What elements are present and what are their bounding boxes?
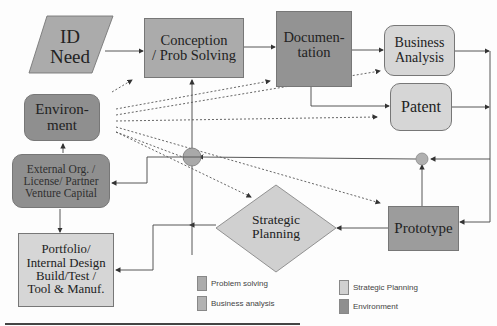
- node-business-analysis: Business Analysis: [384, 25, 455, 76]
- legend-item-environment: Environment: [339, 299, 398, 314]
- flow-diagram: ID Need Conception / Prob Solving Docume…: [0, 0, 497, 326]
- node-patent: Patent: [390, 83, 452, 131]
- legend-label: Strategic Planning: [353, 283, 418, 292]
- node-strategic-planning: Strategic Planning: [236, 213, 316, 241]
- merge-circle-small: [416, 153, 428, 165]
- legend-swatch: [339, 299, 349, 314]
- legend-label: Problem solving: [211, 279, 268, 288]
- legend-label: Environment: [353, 302, 398, 311]
- node-external-org: External Org. / License/ Partner Venture…: [12, 154, 110, 208]
- node-conception: Conception / Prob Solving: [144, 18, 244, 78]
- node-documentation: Documen- tation: [276, 11, 352, 87]
- node-portfolio: Portfolio/ Internal Design Build/Test / …: [18, 233, 114, 307]
- legend-item-problem-solving: Problem solving: [197, 276, 268, 291]
- legend-label: Business analysis: [211, 299, 275, 308]
- legend-item-strategic-planning: Strategic Planning: [339, 280, 418, 295]
- legend-swatch: [339, 280, 349, 295]
- legend-swatch: [197, 296, 207, 311]
- node-environment: Environ- ment: [24, 94, 100, 141]
- node-id-need: ID Need: [40, 27, 100, 67]
- legend-swatch: [197, 276, 207, 291]
- legend-item-business-analysis: Business analysis: [197, 296, 275, 311]
- node-prototype: Prototype: [388, 206, 459, 251]
